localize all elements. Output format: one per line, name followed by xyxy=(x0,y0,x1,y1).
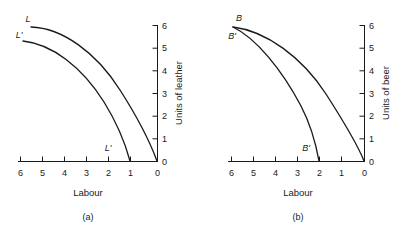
y-tick-label: 5 xyxy=(369,43,374,53)
y-tick-label: 4 xyxy=(369,66,374,76)
x-tick-label: 0 xyxy=(362,168,367,178)
curve-B xyxy=(233,27,364,161)
curve-label-B-prime-inner: B' xyxy=(302,143,310,153)
y-tick-label: 2 xyxy=(162,111,167,121)
curve-L-prime xyxy=(23,41,130,161)
panel-a-y-axis: 6 5 4 3 2 1 0 xyxy=(153,21,168,167)
y-tick-label: 1 xyxy=(162,134,167,144)
curve-label-B-prime-outer: B' xyxy=(228,31,236,41)
x-tick-label: 1 xyxy=(128,168,133,178)
figure-container: 6 5 4 3 2 1 0 6 5 4 3 2 xyxy=(0,0,413,231)
y-tick-label: 0 xyxy=(162,157,167,167)
y-tick-label: 2 xyxy=(369,111,374,121)
x-tick-label: 1 xyxy=(339,168,344,178)
curve-label-L-prime-outer: L' xyxy=(16,30,23,40)
panel-a-x-axis: 6 5 4 3 2 1 0 xyxy=(18,157,160,179)
x-tick-label: 5 xyxy=(251,168,256,178)
y-tick-label: 5 xyxy=(162,43,167,53)
y-axis-title: Units of beer xyxy=(380,66,391,120)
y-tick-label: 4 xyxy=(162,66,167,76)
y-tick-label: 3 xyxy=(162,89,167,99)
x-tick-label: 0 xyxy=(155,168,160,178)
y-tick-label: 6 xyxy=(369,21,374,31)
panel-caption-b: (b) xyxy=(293,212,304,222)
x-tick-label: 4 xyxy=(62,168,67,178)
y-tick-label: 0 xyxy=(369,157,374,167)
panel-b: 6 5 4 3 2 1 0 6 5 4 3 2 xyxy=(206,0,413,231)
x-tick-label: 2 xyxy=(317,168,322,178)
x-tick-label: 3 xyxy=(295,168,300,178)
y-tick-label: 3 xyxy=(369,89,374,99)
panel-a-plot: 6 5 4 3 2 1 0 6 5 4 3 2 xyxy=(0,0,206,231)
x-tick-label: 6 xyxy=(18,168,23,178)
curve-label-L-prime-inner: L' xyxy=(105,143,112,153)
x-tick-label: 6 xyxy=(229,168,234,178)
panel-b-plot: 6 5 4 3 2 1 0 6 5 4 3 2 xyxy=(206,0,413,231)
curve-B-prime xyxy=(233,27,319,161)
x-tick-label: 5 xyxy=(40,168,45,178)
x-axis-title: Labour xyxy=(73,187,103,198)
curve-L xyxy=(31,27,157,161)
x-tick-label: 2 xyxy=(106,168,111,178)
x-axis-title: Labour xyxy=(283,187,313,198)
x-tick-label: 3 xyxy=(84,168,89,178)
panel-b-x-axis: 6 5 4 3 2 1 0 xyxy=(228,157,367,179)
panel-b-y-axis: 6 5 4 3 2 1 0 xyxy=(360,21,375,167)
curve-label-L: L xyxy=(25,14,30,24)
panel-caption-a: (a) xyxy=(83,212,94,222)
panel-a: 6 5 4 3 2 1 0 6 5 4 3 2 xyxy=(0,0,206,231)
y-tick-label: 1 xyxy=(369,134,374,144)
curve-label-B: B xyxy=(236,13,242,23)
y-axis-title: Units of leather xyxy=(173,61,184,125)
x-tick-label: 4 xyxy=(273,168,278,178)
y-tick-label: 6 xyxy=(162,21,167,31)
